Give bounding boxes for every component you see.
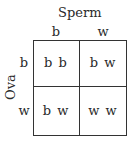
sperm-axis-label: Sperm — [58, 6, 101, 20]
ova-axis-label: Ova — [4, 72, 18, 102]
cell-ww: w w — [80, 104, 126, 118]
cell-bw-bottom: b w — [33, 104, 79, 118]
column-header-b: b — [33, 25, 79, 39]
grid-divider-vertical — [79, 40, 80, 136]
cell-bb: b b — [33, 56, 79, 70]
row-header-b: b — [16, 56, 32, 70]
grid-divider-horizontal — [33, 86, 127, 87]
cell-bw-top: b w — [80, 56, 126, 70]
row-header-w: w — [16, 104, 32, 118]
column-header-w: w — [80, 25, 126, 39]
